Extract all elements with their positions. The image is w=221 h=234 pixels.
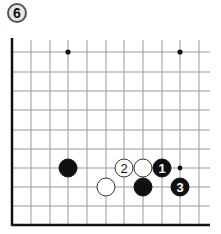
black-stone bbox=[134, 178, 152, 196]
star-point bbox=[65, 49, 70, 54]
star-point bbox=[177, 49, 182, 54]
stone-move-number: 3 bbox=[176, 180, 183, 195]
move-marker-dot bbox=[178, 166, 183, 171]
white-stone bbox=[134, 159, 152, 177]
stone-move-number: 1 bbox=[158, 161, 165, 176]
white-stone bbox=[97, 178, 115, 196]
black-stone bbox=[59, 159, 77, 177]
stone-move-number: 2 bbox=[120, 161, 127, 176]
go-board: 213 bbox=[0, 0, 221, 234]
